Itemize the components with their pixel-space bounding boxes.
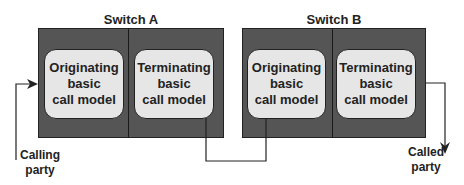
called-party-label: Called party xyxy=(404,145,448,175)
connection-lines xyxy=(0,0,464,185)
label-line: Calling xyxy=(14,148,66,163)
label-line: party xyxy=(14,163,66,178)
label-line: party xyxy=(404,160,448,175)
calling-party-label: Calling party xyxy=(14,148,66,178)
called-party-line xyxy=(426,83,445,146)
label-line: Called xyxy=(404,145,448,160)
inter-switch-line xyxy=(206,118,266,161)
